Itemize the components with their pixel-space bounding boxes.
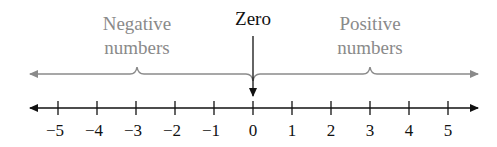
tick-label: 1 — [288, 121, 297, 140]
zero-label: Zero — [235, 8, 271, 29]
tick-labels: −5 −4 −3 −2 −1 0 1 2 3 4 5 — [46, 121, 452, 140]
tick-label: −2 — [163, 121, 181, 140]
tick-label: −3 — [124, 121, 142, 140]
negative-label-line2: numbers — [104, 37, 169, 58]
number-line-canvas: −5 −4 −3 −2 −1 0 1 2 3 4 5 Zero Negative… — [0, 0, 497, 147]
negative-label-line1: Negative — [103, 13, 172, 34]
positive-label-line1: Positive — [339, 13, 400, 34]
positive-label-line2: numbers — [337, 37, 402, 58]
tick-label: 0 — [249, 121, 258, 140]
negative-bracket — [30, 67, 253, 81]
tick-label: 5 — [444, 121, 453, 140]
positive-bracket — [253, 67, 478, 81]
positive-numbers-label: Positive numbers — [337, 13, 402, 58]
tick-label: −4 — [85, 121, 104, 140]
tick-label: −5 — [46, 121, 64, 140]
sign-bracket — [30, 67, 478, 81]
negative-numbers-label: Negative numbers — [103, 13, 172, 58]
tick-label: 2 — [327, 121, 336, 140]
tick-label: 4 — [405, 121, 414, 140]
tick-label: 3 — [366, 121, 375, 140]
tick-label: −1 — [202, 121, 220, 140]
number-line-diagram: −5 −4 −3 −2 −1 0 1 2 3 4 5 Zero Negative… — [0, 0, 497, 147]
